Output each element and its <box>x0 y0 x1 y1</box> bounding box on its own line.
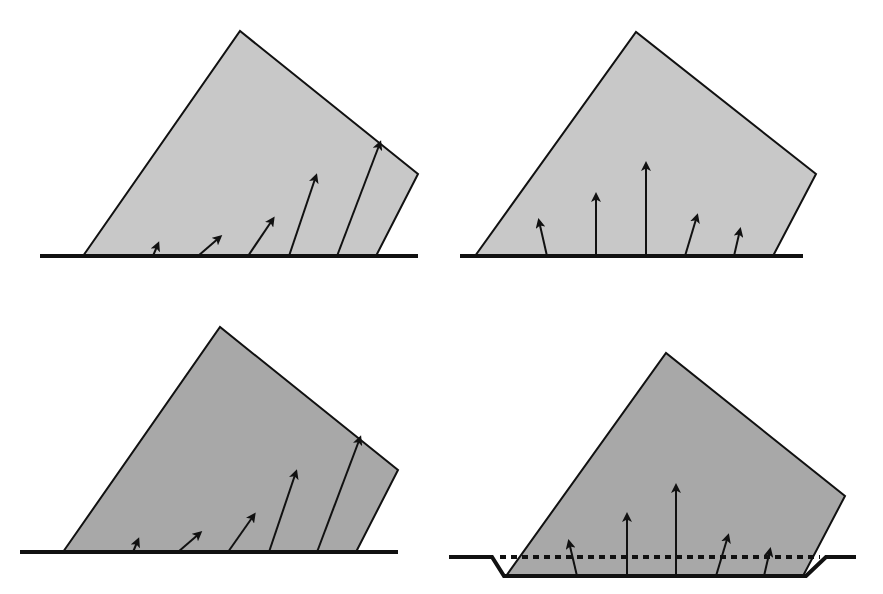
figure-canvas <box>0 0 883 594</box>
block-pressure-diagram <box>0 0 883 594</box>
panel-bottom-right <box>449 353 856 576</box>
block-shape <box>83 31 418 256</box>
panel-bottom-left <box>20 327 398 552</box>
block-shape <box>63 327 398 552</box>
panel-top-left <box>40 31 418 256</box>
panel-top-right <box>460 32 816 256</box>
